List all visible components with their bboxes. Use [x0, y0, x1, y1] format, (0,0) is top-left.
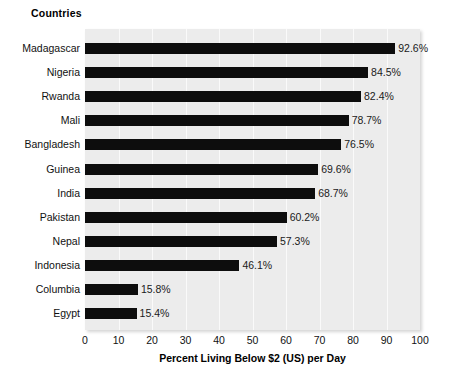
category-label: Bangladesh [0, 139, 80, 150]
category-label: Egypt [0, 308, 80, 319]
bar-value-label: 84.5% [371, 67, 401, 78]
category-label: Indonesia [0, 260, 80, 271]
bar-value-label: 60.2% [290, 212, 320, 223]
x-tick-label: 0 [82, 334, 88, 346]
x-tick-label: 40 [213, 334, 225, 346]
category-label: India [0, 188, 80, 199]
category-label: Rwanda [0, 91, 80, 102]
x-tick-label: 10 [113, 334, 125, 346]
bar-value-label: 78.7% [352, 115, 382, 126]
bar-value-label: 15.8% [141, 284, 171, 295]
category-labels-layer: MadagascarNigeriaRwandaMaliBangladeshGui… [0, 29, 80, 330]
value-labels-layer: 92.6%84.5%82.4%78.7%76.5%69.6%68.7%60.2%… [85, 29, 453, 330]
category-label: Guinea [0, 164, 80, 175]
bar-value-label: 82.4% [364, 91, 394, 102]
x-tick-label: 80 [347, 334, 359, 346]
x-tick-label: 90 [381, 334, 393, 346]
category-label: Nigeria [0, 67, 80, 78]
bar-value-label: 92.6% [398, 43, 428, 54]
x-axis-title: Percent Living Below $2 (US) per Day [85, 352, 420, 364]
x-axis-tick-labels: 0102030405060708090100 [0, 334, 453, 348]
category-label: Nepal [0, 236, 80, 247]
category-label: Mali [0, 115, 80, 126]
x-tick-label: 50 [247, 334, 259, 346]
bar-value-label: 46.1% [242, 260, 272, 271]
x-tick-label: 30 [180, 334, 192, 346]
category-label: Columbia [0, 284, 80, 295]
bar-value-label: 76.5% [344, 139, 374, 150]
category-label: Pakistan [0, 212, 80, 223]
x-tick-label: 60 [280, 334, 292, 346]
x-tick-label: 100 [411, 334, 429, 346]
bar-chart-figure: Countries 92.6%84.5%82.4%78.7%76.5%69.6%… [0, 0, 453, 378]
x-tick-label: 70 [314, 334, 326, 346]
page-title: Countries [31, 7, 82, 19]
x-tick-label: 20 [146, 334, 158, 346]
bar-value-label: 68.7% [318, 188, 348, 199]
category-label: Madagascar [0, 43, 80, 54]
bar-value-label: 57.3% [280, 236, 310, 247]
bar-value-label: 69.6% [321, 164, 351, 175]
bar-value-label: 15.4% [140, 308, 170, 319]
